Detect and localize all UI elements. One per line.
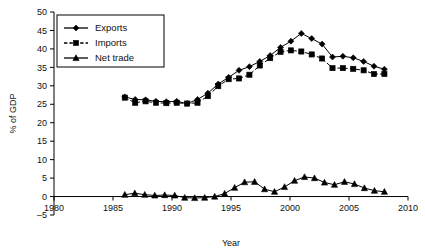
data-point-marker <box>341 179 347 185</box>
data-point-marker <box>281 184 287 190</box>
data-point-marker <box>268 56 273 61</box>
data-point-marker <box>309 52 314 57</box>
x-tick-label: 1980 <box>44 203 64 213</box>
data-point-marker <box>246 64 252 70</box>
legend-item-label: Net trade <box>95 52 134 63</box>
data-point-marker <box>382 71 387 76</box>
y-tick-label: 45 <box>37 26 47 36</box>
data-point-marker <box>236 76 241 81</box>
data-point-marker <box>340 53 346 59</box>
x-tick-label: 2010 <box>398 203 418 213</box>
chart-container: –505101520253035404550198019851990199520… <box>0 0 425 251</box>
y-axis-title: % of GDP <box>8 93 18 133</box>
trade-line-chart: –505101520253035404550198019851990199520… <box>0 0 425 251</box>
data-point-marker <box>371 71 376 76</box>
data-point-marker <box>73 40 78 45</box>
y-tick-label: 50 <box>37 7 47 17</box>
data-point-marker <box>153 100 158 105</box>
data-point-marker <box>232 184 238 190</box>
data-point-marker <box>361 185 367 191</box>
data-point-marker <box>350 55 356 61</box>
y-tick-label: 5 <box>42 173 47 183</box>
x-tick-label: 1985 <box>103 203 123 213</box>
data-point-marker <box>278 49 283 54</box>
x-tick-label: 2005 <box>339 203 359 213</box>
data-point-marker <box>257 63 262 68</box>
data-point-marker <box>247 72 252 77</box>
data-point-marker <box>205 94 210 99</box>
data-point-marker <box>164 101 169 106</box>
chart-legend: ExportsImportsNet trade <box>57 15 164 67</box>
data-point-marker <box>226 77 231 82</box>
data-point-marker <box>309 36 315 42</box>
y-tick-label: 10 <box>37 155 47 165</box>
data-point-marker <box>361 68 366 73</box>
x-tick-label: 1990 <box>162 203 182 213</box>
y-tick-label: 15 <box>37 136 47 146</box>
data-point-marker <box>371 63 377 69</box>
data-point-marker <box>236 67 242 73</box>
data-point-marker <box>261 186 267 192</box>
axis-titles: Year% of GDP <box>8 93 240 248</box>
data-point-marker <box>330 66 335 71</box>
data-point-marker <box>319 56 324 61</box>
x-axis-title: Year <box>222 238 240 248</box>
data-point-marker <box>288 48 293 53</box>
data-point-marker <box>195 100 200 105</box>
data-point-marker <box>340 66 345 71</box>
y-tick-label: 20 <box>37 118 47 128</box>
data-point-marker <box>132 190 138 196</box>
data-point-marker <box>216 84 221 89</box>
data-point-marker <box>351 66 356 71</box>
data-point-marker <box>143 99 148 104</box>
y-tick-label: 40 <box>37 44 47 54</box>
legend-item-label: Exports <box>95 22 127 33</box>
data-point-marker <box>299 49 304 54</box>
data-point-marker <box>122 95 127 100</box>
data-point-marker <box>133 100 138 105</box>
y-tick-label: 35 <box>37 63 47 73</box>
x-tick-label: 2000 <box>280 203 300 213</box>
legend-item-label: Imports <box>95 37 127 48</box>
data-point-marker <box>301 174 307 180</box>
data-point-marker <box>174 100 179 105</box>
data-point-marker <box>222 190 228 196</box>
data-point-marker <box>185 101 190 106</box>
y-tick-label: 30 <box>37 81 47 91</box>
data-point-marker <box>361 58 367 64</box>
data-point-marker <box>321 179 327 185</box>
y-tick-label: 0 <box>42 192 47 202</box>
y-tick-label: 25 <box>37 99 47 109</box>
x-tick-label: 1995 <box>221 203 241 213</box>
